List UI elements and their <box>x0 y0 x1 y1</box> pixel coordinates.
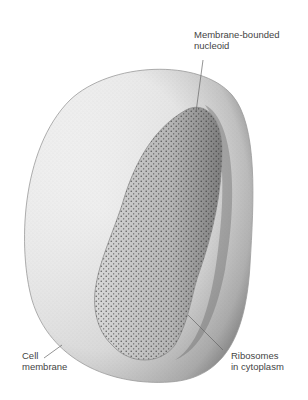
cell-membrane-label-line2: membrane <box>22 361 67 372</box>
cell-membrane-label: Cell membrane <box>22 350 67 372</box>
ribosomes-label-line1: Ribosomes <box>231 350 284 361</box>
ribosomes-label-line2: in cytoplasm <box>231 361 284 372</box>
nucleoid-label-line2: nucleoid <box>194 40 280 51</box>
nucleoid-label-line1: Membrane-bounded <box>194 29 280 40</box>
ribosomes-label: Ribosomes in cytoplasm <box>231 350 284 372</box>
cell-membrane-label-line1: Cell <box>22 350 67 361</box>
nucleoid-label: Membrane-bounded nucleoid <box>194 29 280 51</box>
prokaryotic-cell-diagram <box>0 0 308 400</box>
